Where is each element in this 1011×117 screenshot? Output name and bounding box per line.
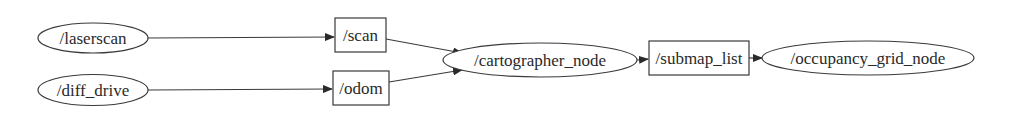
node-cartographer: /cartographer_node — [443, 43, 637, 77]
topic-label: /scan — [343, 26, 378, 45]
node-label: /occupancy_grid_node — [791, 49, 946, 68]
node-label: /cartographer_node — [474, 51, 606, 70]
topic-label: /submap_list — [656, 49, 743, 68]
ros-graph-diagram: /laserscan /diff_drive /scan /odom /cart… — [0, 0, 1011, 117]
edge-laserscan-scan — [148, 37, 334, 38]
node-label: /laserscan — [59, 29, 127, 48]
topic-odom: /odom — [333, 71, 389, 105]
edge-odom-cartographer — [389, 70, 462, 82]
edge-diff-drive-odom — [148, 89, 332, 90]
node-occupancy-grid: /occupancy_grid_node — [762, 41, 974, 75]
graph-canvas: /laserscan /diff_drive /scan /odom /cart… — [0, 0, 1011, 117]
node-laserscan: /laserscan — [38, 23, 148, 53]
node-label: /diff_drive — [57, 81, 129, 100]
topic-label: /odom — [339, 79, 382, 98]
edge-cartographer-submap — [637, 59, 648, 60]
topic-scan: /scan — [335, 18, 386, 52]
topic-submap-list: /submap_list — [649, 41, 749, 75]
node-diff-drive: /diff_drive — [38, 75, 148, 106]
edge-scan-cartographer — [386, 39, 462, 53]
